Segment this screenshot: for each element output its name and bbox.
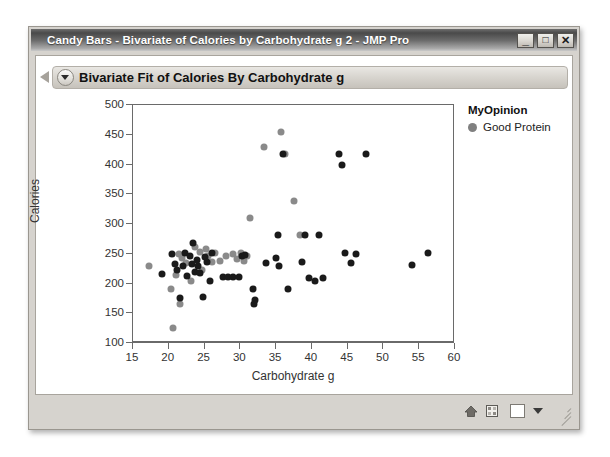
x-axis-tick <box>418 343 419 349</box>
data-point[interactable] <box>341 249 348 256</box>
y-axis-tick <box>126 193 132 194</box>
minimize-icon: _ <box>518 34 533 46</box>
y-axis-tick-label: 100 <box>90 336 124 348</box>
data-point[interactable] <box>145 262 152 269</box>
data-point[interactable] <box>190 240 197 247</box>
data-point[interactable] <box>280 151 287 158</box>
data-point[interactable] <box>278 129 285 136</box>
color-swatch-button[interactable] <box>510 404 525 418</box>
data-point[interactable] <box>260 143 267 150</box>
x-axis-tick <box>311 343 312 349</box>
x-axis-tick <box>239 343 240 349</box>
data-point[interactable] <box>186 253 193 260</box>
data-point[interactable] <box>197 269 204 276</box>
data-point[interactable] <box>184 272 191 279</box>
data-point[interactable] <box>291 198 298 205</box>
data-point[interactable] <box>235 273 242 280</box>
x-axis-line <box>132 342 454 343</box>
data-point[interactable] <box>363 151 370 158</box>
x-axis-tick <box>168 343 169 349</box>
x-axis-tick-label: 55 <box>412 351 425 363</box>
data-point[interactable] <box>168 251 175 258</box>
maximize-button[interactable]: □ <box>537 33 554 48</box>
data-point[interactable] <box>274 232 281 239</box>
y-axis-tick <box>126 253 132 254</box>
y-axis-tick <box>126 283 132 284</box>
data-points-layer <box>133 105 453 341</box>
legend-marker-icon <box>468 123 477 132</box>
data-point[interactable] <box>275 263 282 270</box>
data-point[interactable] <box>338 162 345 169</box>
data-point[interactable] <box>217 258 224 265</box>
x-axis-tick-label: 60 <box>448 351 461 363</box>
legend-item-label: Good Protein <box>483 121 551 133</box>
data-point[interactable] <box>424 249 431 256</box>
x-axis-tick-label: 25 <box>197 351 210 363</box>
data-point[interactable] <box>247 215 254 222</box>
x-axis-tick-label: 30 <box>233 351 246 363</box>
legend-item[interactable]: Good Protein <box>468 121 568 133</box>
data-point[interactable] <box>206 277 213 284</box>
data-point[interactable] <box>250 286 257 293</box>
close-icon: ✕ <box>558 35 573 46</box>
data-point[interactable] <box>301 232 308 239</box>
grid-icon[interactable] <box>484 403 500 419</box>
y-axis-tick-label: 150 <box>90 306 124 318</box>
data-point[interactable] <box>241 251 248 258</box>
status-bar <box>35 399 573 423</box>
x-axis-tick <box>454 343 455 349</box>
data-point[interactable] <box>203 259 210 266</box>
x-axis-tick-label: 15 <box>126 351 139 363</box>
data-point[interactable] <box>311 277 318 284</box>
window-titlebar[interactable]: Candy Bars - Bivariate of Calories by Ca… <box>31 29 577 51</box>
data-point[interactable] <box>200 293 207 300</box>
application-window: Candy Bars - Bivariate of Calories by Ca… <box>28 26 580 430</box>
home-icon[interactable] <box>463 403 479 419</box>
data-point[interactable] <box>251 297 258 304</box>
window-title: Candy Bars - Bivariate of Calories by Ca… <box>31 34 517 46</box>
data-point[interactable] <box>298 259 305 266</box>
data-point[interactable] <box>284 286 291 293</box>
x-axis-tick-label: 50 <box>376 351 389 363</box>
y-axis-tick-label: 400 <box>90 158 124 170</box>
legend: MyOpinion Good Protein <box>468 104 568 133</box>
minimize-button[interactable]: _ <box>517 33 534 48</box>
chevron-down-icon[interactable] <box>57 69 74 86</box>
y-axis-tick-label: 350 <box>90 187 124 199</box>
report-header: Bivariate Fit of Calories By Carbohydrat… <box>36 64 574 90</box>
x-axis-tick-label: 45 <box>340 351 353 363</box>
legend-entries: Good Protein <box>468 121 568 133</box>
data-point[interactable] <box>177 295 184 302</box>
y-axis-tick-label: 250 <box>90 247 124 259</box>
report-title-bar[interactable]: Bivariate Fit of Calories By Carbohydrat… <box>52 66 568 89</box>
data-point[interactable] <box>223 252 230 259</box>
y-axis-tick-label: 200 <box>90 277 124 289</box>
close-button[interactable]: ✕ <box>557 33 574 48</box>
data-point[interactable] <box>158 270 165 277</box>
data-point[interactable] <box>320 275 327 282</box>
y-axis-tick <box>126 104 132 105</box>
data-point[interactable] <box>336 151 343 158</box>
x-axis-tick-label: 40 <box>304 351 317 363</box>
resize-grip-icon[interactable] <box>557 404 571 418</box>
data-point[interactable] <box>263 260 270 267</box>
data-point[interactable] <box>353 251 360 258</box>
plot-frame <box>132 104 454 342</box>
x-axis-tick-label: 20 <box>161 351 174 363</box>
data-point[interactable] <box>195 262 202 269</box>
y-axis-title: Calories <box>28 179 42 223</box>
data-point[interactable] <box>316 232 323 239</box>
data-point[interactable] <box>167 286 174 293</box>
caret-down-icon[interactable] <box>533 408 543 414</box>
data-point[interactable] <box>208 249 215 256</box>
y-axis-tick-label: 300 <box>90 217 124 229</box>
x-axis-tick <box>382 343 383 349</box>
data-point[interactable] <box>347 260 354 267</box>
y-axis-tick <box>126 223 132 224</box>
data-point[interactable] <box>170 324 177 331</box>
outline-triangle-icon[interactable] <box>40 71 49 83</box>
data-point[interactable] <box>409 262 416 269</box>
data-point[interactable] <box>273 254 280 261</box>
y-axis-tick <box>126 164 132 165</box>
data-point[interactable] <box>180 263 187 270</box>
